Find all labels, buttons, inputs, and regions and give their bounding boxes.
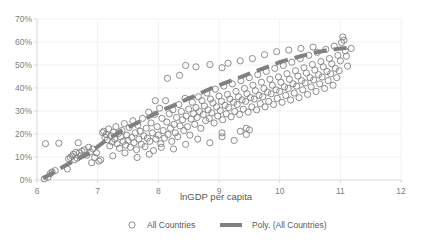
- scatter-point: [113, 124, 119, 130]
- scatter-point: [283, 92, 289, 98]
- scatter-point: [254, 107, 260, 113]
- scatter-point: [56, 140, 62, 146]
- x-axis-tick-label: 11: [336, 186, 345, 196]
- scatter-point: [298, 45, 304, 51]
- scatter-point: [207, 140, 213, 146]
- scatter-point: [146, 151, 152, 157]
- scatter-point: [192, 121, 198, 127]
- x-axis-title: lnGDP per capita: [180, 191, 253, 202]
- x-axis-tick-label: 8: [156, 186, 161, 196]
- scatter-point: [149, 130, 155, 136]
- scatter-point: [173, 114, 179, 120]
- scatter-point: [156, 105, 162, 111]
- scatter-point: [304, 91, 310, 97]
- scatter-point: [96, 158, 102, 164]
- scatter-point: [122, 150, 128, 156]
- scatter-point: [195, 136, 201, 142]
- scatter-point: [256, 92, 262, 98]
- scatter-point: [152, 98, 158, 104]
- scatter-point: [143, 125, 149, 131]
- scatter-point: [167, 125, 173, 131]
- scatter-point: [148, 120, 154, 126]
- scatter-point: [171, 121, 177, 127]
- legend-label-all-countries[interactable]: All Countries: [147, 220, 195, 230]
- scatter-point: [194, 114, 200, 120]
- y-axis-tick-label: 40%: [15, 83, 32, 93]
- scatter-point: [161, 135, 167, 141]
- scatter-point: [201, 103, 207, 109]
- scatter-point: [176, 72, 182, 78]
- scatter-point: [313, 88, 319, 94]
- scatter-point: [264, 89, 270, 95]
- scatter-point: [176, 101, 182, 107]
- scatter-point: [75, 140, 81, 146]
- scatter-point: [348, 45, 354, 51]
- trendline-path: [43, 48, 352, 178]
- scatter-point: [166, 111, 172, 117]
- scatter-point: [260, 94, 266, 100]
- legend-label-poly-all-countries[interactable]: Poly. (All Countries): [252, 220, 327, 230]
- y-axis-tick-label: 60%: [15, 37, 32, 47]
- scatter-point: [247, 95, 253, 101]
- scatter-point: [180, 117, 186, 123]
- scatter-point: [110, 153, 116, 159]
- scatter-point: [170, 146, 176, 152]
- scatter-point: [262, 104, 268, 110]
- chart-canvas: 0%10%20%30%40%50%60%70% 6789101112 lnGDP…: [0, 0, 432, 242]
- scatter-point: [184, 124, 190, 130]
- scatter-point: [193, 104, 199, 110]
- scatter-point: [133, 147, 139, 153]
- scatter-point: [187, 132, 193, 138]
- chart-legend: All CountriesPoly. (All Countries): [129, 220, 327, 230]
- scatter-point: [158, 144, 164, 150]
- y-axis-tick-label: 30%: [15, 106, 32, 116]
- scatter-point: [261, 52, 267, 58]
- y-axis-tick-label: 0%: [20, 175, 33, 185]
- scatter-point: [308, 84, 314, 90]
- scatter-point: [150, 147, 156, 153]
- y-axis-tick-label: 20%: [15, 129, 32, 139]
- scatter-point: [287, 97, 293, 103]
- scatter-point: [164, 119, 170, 125]
- trendline-poly-all-countries: [43, 48, 352, 178]
- scatter-point: [237, 128, 243, 134]
- scatter-point: [249, 55, 255, 61]
- scatter-point: [220, 117, 226, 123]
- y-axis-tick-label: 50%: [15, 60, 32, 70]
- scatter-point: [267, 76, 273, 82]
- scatter-point: [219, 65, 225, 71]
- scatter-point: [274, 49, 280, 55]
- scatter-point: [139, 115, 145, 121]
- scatter-point: [169, 138, 175, 144]
- scatter-point: [317, 81, 323, 87]
- scatter-point: [330, 82, 336, 88]
- scatter-chart: 0%10%20%30%40%50%60%70% 6789101112 lnGDP…: [0, 0, 432, 242]
- scatter-point: [237, 58, 243, 64]
- scatter-point: [183, 141, 189, 147]
- legend-marker-all-countries: [129, 222, 135, 228]
- x-axis-tick-label: 7: [95, 186, 100, 196]
- scatter-point: [325, 78, 331, 84]
- x-axis-tick-label: 12: [396, 186, 406, 196]
- y-axis-tick-label: 70%: [15, 14, 32, 24]
- scatter-point: [271, 101, 277, 107]
- scatter-point: [181, 127, 187, 133]
- scatter-point: [219, 130, 225, 136]
- y-axis-tick-label: 10%: [15, 152, 32, 162]
- scatter-point: [343, 53, 349, 59]
- y-axis-tick-labels: 0%10%20%30%40%50%60%70%: [15, 14, 37, 185]
- scatter-point: [258, 79, 264, 85]
- scatter-point: [272, 65, 278, 71]
- scatter-point: [296, 95, 302, 101]
- scatter-point: [345, 63, 351, 69]
- x-axis-tick-label: 6: [35, 186, 40, 196]
- scatter-point: [310, 44, 316, 50]
- scatter-point: [190, 111, 196, 117]
- x-axis-tick-label: 10: [275, 186, 285, 196]
- scatter-point: [244, 91, 250, 97]
- scatter-point: [291, 90, 297, 96]
- scatter-point: [286, 47, 292, 53]
- scatter-point: [42, 141, 48, 147]
- scatter-point: [231, 137, 237, 143]
- scatter-point: [198, 125, 204, 131]
